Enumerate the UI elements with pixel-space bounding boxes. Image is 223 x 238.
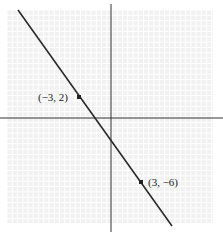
point-label-2: (3, −6): [148, 176, 178, 189]
coordinate-plane: (−3, 2) (3, −6): [0, 0, 223, 238]
point-marker-1: [77, 95, 81, 99]
point-label-1: (−3, 2): [38, 91, 68, 104]
point-marker-2: [139, 180, 143, 184]
